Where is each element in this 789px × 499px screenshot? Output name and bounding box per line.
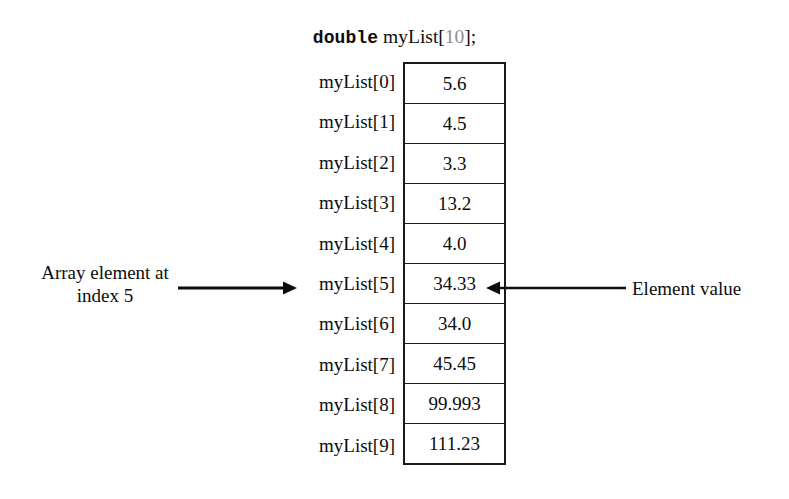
array-size: 10 xyxy=(445,26,465,47)
right-annotation: Element value xyxy=(632,277,741,300)
index-label-6: myList[6] xyxy=(243,304,395,344)
index-label-3: myList[3] xyxy=(243,183,395,223)
array-cell-7: 45.45 xyxy=(405,344,504,384)
index-label-8: myList[8] xyxy=(243,385,395,425)
array-cell-9: 111.23 xyxy=(405,424,504,463)
index-label-4: myList[4] xyxy=(243,224,395,264)
left-annotation-line2: index 5 xyxy=(30,284,180,307)
left-pointer-arrow-icon xyxy=(178,281,300,295)
array-cells-table: 5.6 4.5 3.3 13.2 4.0 34.33 34.0 45.45 99… xyxy=(403,62,506,465)
array-cell-4: 4.0 xyxy=(405,224,504,264)
left-annotation-line1: Array element at xyxy=(30,261,180,284)
array-declaration: double myList[10]; xyxy=(0,26,789,49)
array-cell-8: 99.993 xyxy=(405,384,504,424)
array-cell-3: 13.2 xyxy=(405,184,504,224)
right-pointer-arrow-icon xyxy=(485,281,627,295)
type-keyword: double xyxy=(313,28,378,48)
index-label-9: myList[9] xyxy=(243,426,395,466)
array-identifier: myList xyxy=(378,26,438,47)
index-label-column: myList[0] myList[1] myList[2] myList[3] … xyxy=(243,62,395,466)
index-label-7: myList[7] xyxy=(243,345,395,385)
close-bracket: ]; xyxy=(464,26,476,47)
array-cell-1: 4.5 xyxy=(405,104,504,144)
index-label-2: myList[2] xyxy=(243,143,395,183)
index-label-1: myList[1] xyxy=(243,102,395,142)
right-annotation-label: Element value xyxy=(632,278,741,299)
array-cell-0: 5.6 xyxy=(405,64,504,104)
left-annotation: Array element at index 5 xyxy=(30,261,180,307)
array-cell-2: 3.3 xyxy=(405,144,504,184)
array-cell-6: 34.0 xyxy=(405,304,504,344)
index-label-0: myList[0] xyxy=(243,62,395,102)
